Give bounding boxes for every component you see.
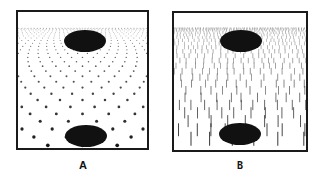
panel-b-label: B	[230, 160, 250, 171]
line-texture-gradient	[174, 13, 306, 150]
panel-b-line-texture	[172, 11, 308, 152]
panel-a-label: A	[73, 159, 93, 171]
panel-a-dot-texture	[16, 10, 149, 150]
dot-texture-gradient	[18, 12, 147, 148]
